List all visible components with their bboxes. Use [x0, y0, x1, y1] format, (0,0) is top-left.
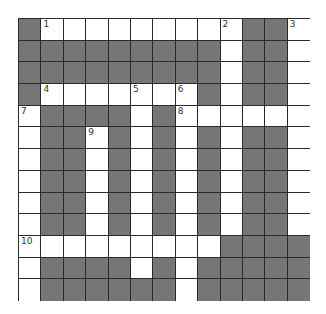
answer-cell[interactable]: [153, 236, 175, 258]
answer-cell[interactable]: [131, 258, 153, 280]
answer-cell[interactable]: [86, 236, 108, 258]
answer-cell[interactable]: [19, 171, 41, 193]
clue-number: 7: [21, 107, 27, 116]
answer-cell[interactable]: [221, 171, 243, 193]
answer-cell[interactable]: [288, 171, 310, 193]
answer-cell[interactable]: [198, 106, 220, 128]
block-cell: [64, 62, 86, 84]
block-cell: [198, 62, 220, 84]
answer-cell[interactable]: [109, 19, 131, 41]
block-cell: [288, 258, 310, 280]
answer-cell[interactable]: [86, 214, 108, 236]
answer-cell[interactable]: [109, 236, 131, 258]
answer-cell[interactable]: [131, 214, 153, 236]
answer-cell[interactable]: [131, 127, 153, 149]
answer-cell[interactable]: 2: [221, 19, 243, 41]
block-cell: [109, 214, 131, 236]
answer-cell[interactable]: [243, 106, 265, 128]
answer-cell[interactable]: [221, 193, 243, 215]
answer-cell[interactable]: 8: [176, 106, 198, 128]
answer-cell[interactable]: [288, 193, 310, 215]
answer-cell[interactable]: [176, 236, 198, 258]
answer-cell[interactable]: [153, 19, 175, 41]
answer-cell[interactable]: [131, 149, 153, 171]
answer-cell[interactable]: [288, 149, 310, 171]
answer-cell[interactable]: [131, 193, 153, 215]
answer-cell[interactable]: [86, 19, 108, 41]
answer-cell[interactable]: [221, 127, 243, 149]
answer-cell[interactable]: [176, 127, 198, 149]
answer-cell[interactable]: [221, 62, 243, 84]
answer-cell[interactable]: [86, 84, 108, 106]
answer-cell[interactable]: [19, 214, 41, 236]
block-cell: [41, 258, 63, 280]
block-cell: [131, 279, 153, 301]
answer-cell[interactable]: [176, 258, 198, 280]
answer-cell[interactable]: [86, 149, 108, 171]
block-cell: [19, 19, 41, 41]
answer-cell[interactable]: [86, 193, 108, 215]
answer-cell[interactable]: [221, 214, 243, 236]
answer-cell[interactable]: [19, 127, 41, 149]
answer-cell[interactable]: [131, 236, 153, 258]
answer-cell[interactable]: [221, 106, 243, 128]
answer-cell[interactable]: [176, 279, 198, 301]
block-cell: [109, 279, 131, 301]
answer-cell[interactable]: [221, 149, 243, 171]
answer-cell[interactable]: [19, 279, 41, 301]
answer-cell[interactable]: [41, 236, 63, 258]
answer-cell[interactable]: [19, 258, 41, 280]
answer-cell[interactable]: [288, 127, 310, 149]
block-cell: [41, 149, 63, 171]
answer-cell[interactable]: [176, 193, 198, 215]
answer-cell[interactable]: [64, 19, 86, 41]
answer-cell[interactable]: [198, 19, 220, 41]
answer-cell[interactable]: [86, 171, 108, 193]
answer-cell[interactable]: 6: [176, 84, 198, 106]
block-cell: [198, 171, 220, 193]
answer-cell[interactable]: 7: [19, 106, 41, 128]
answer-cell[interactable]: [64, 236, 86, 258]
answer-cell[interactable]: [221, 41, 243, 63]
answer-cell[interactable]: [288, 41, 310, 63]
block-cell: [41, 106, 63, 128]
answer-cell[interactable]: [176, 214, 198, 236]
answer-cell[interactable]: [221, 84, 243, 106]
answer-cell[interactable]: [176, 19, 198, 41]
block-cell: [153, 127, 175, 149]
block-cell: [64, 41, 86, 63]
block-cell: [64, 106, 86, 128]
answer-cell[interactable]: 5: [131, 84, 153, 106]
answer-cell[interactable]: [288, 62, 310, 84]
block-cell: [153, 214, 175, 236]
block-cell: [243, 214, 265, 236]
answer-cell[interactable]: [64, 84, 86, 106]
answer-cell[interactable]: [288, 84, 310, 106]
clue-number: 8: [178, 107, 184, 116]
answer-cell[interactable]: [176, 171, 198, 193]
block-cell: [109, 258, 131, 280]
block-cell: [19, 41, 41, 63]
answer-cell[interactable]: [198, 236, 220, 258]
block-cell: [198, 41, 220, 63]
answer-cell[interactable]: [176, 149, 198, 171]
answer-cell[interactable]: 4: [41, 84, 63, 106]
answer-cell[interactable]: 10: [19, 236, 41, 258]
answer-cell[interactable]: 1: [41, 19, 63, 41]
answer-cell[interactable]: [288, 214, 310, 236]
answer-cell[interactable]: [265, 106, 287, 128]
block-cell: [109, 62, 131, 84]
block-cell: [153, 149, 175, 171]
answer-cell[interactable]: [153, 84, 175, 106]
block-cell: [109, 193, 131, 215]
answer-cell[interactable]: [109, 84, 131, 106]
answer-cell[interactable]: [288, 106, 310, 128]
block-cell: [41, 62, 63, 84]
answer-cell[interactable]: [19, 149, 41, 171]
answer-cell[interactable]: 3: [288, 19, 310, 41]
answer-cell[interactable]: [131, 106, 153, 128]
answer-cell[interactable]: [131, 171, 153, 193]
answer-cell[interactable]: [131, 19, 153, 41]
answer-cell[interactable]: 9: [86, 127, 108, 149]
answer-cell[interactable]: [19, 193, 41, 215]
